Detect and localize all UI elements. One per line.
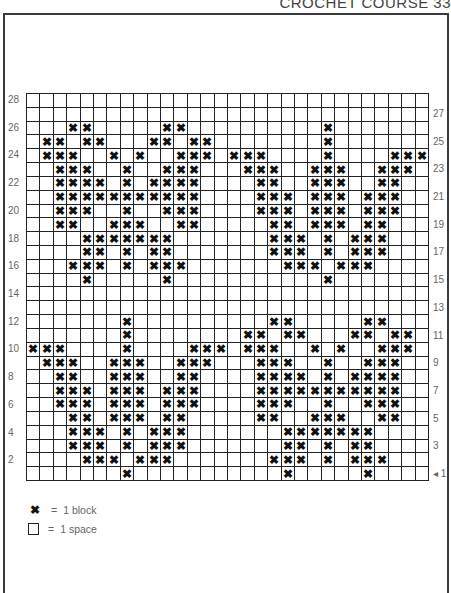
block-cell: ✖ — [255, 398, 268, 412]
block-cell: ✖ — [107, 218, 120, 232]
space-cell — [362, 287, 375, 301]
block-cell: ✖ — [40, 357, 53, 371]
block-cell: ✖ — [67, 177, 80, 191]
space-cell — [67, 287, 80, 301]
space-cell — [27, 398, 40, 412]
space-cell — [40, 384, 53, 398]
space-cell — [40, 108, 53, 122]
space-cell — [201, 232, 214, 246]
space-cell — [188, 232, 201, 246]
block-cell: ✖ — [161, 426, 174, 440]
block-cell: ✖ — [201, 357, 214, 371]
block-cell: ✖ — [322, 122, 335, 136]
space-cell — [201, 108, 214, 122]
block-cell: ✖ — [282, 440, 295, 454]
space-cell — [94, 274, 107, 288]
block-cell: ✖ — [148, 260, 161, 274]
space-cell — [322, 343, 335, 357]
block-cell: ✖ — [174, 122, 187, 136]
space-cell — [81, 343, 94, 357]
block-cell: ✖ — [375, 163, 388, 177]
space-cell — [375, 94, 388, 108]
block-cell: ✖ — [349, 426, 362, 440]
block-cell: ✖ — [161, 260, 174, 274]
block-cell: ✖ — [54, 343, 67, 357]
space-cell — [268, 260, 281, 274]
space-cell — [27, 260, 40, 274]
space-cell — [148, 287, 161, 301]
space-cell — [81, 357, 94, 371]
block-cell: ✖ — [308, 163, 321, 177]
space-cell — [188, 329, 201, 343]
block-cell: ✖ — [322, 398, 335, 412]
space-cell — [174, 467, 187, 481]
space-cell — [349, 108, 362, 122]
block-cell: ✖ — [362, 315, 375, 329]
space-cell — [295, 122, 308, 136]
space-cell — [94, 329, 107, 343]
space-cell — [161, 357, 174, 371]
block-cell: ✖ — [67, 163, 80, 177]
space-cell — [201, 384, 214, 398]
block-cell: ✖ — [308, 343, 321, 357]
space-cell — [375, 440, 388, 454]
space-cell — [362, 149, 375, 163]
space-cell — [349, 191, 362, 205]
block-cell: ✖ — [322, 246, 335, 260]
space-cell — [402, 453, 415, 467]
block-cell: ✖ — [362, 370, 375, 384]
block-cell: ✖ — [241, 163, 254, 177]
block-cell: ✖ — [121, 440, 134, 454]
block-cell: ✖ — [362, 440, 375, 454]
row-label: 21 — [433, 191, 444, 202]
block-cell: ✖ — [54, 384, 67, 398]
space-cell — [335, 122, 348, 136]
space-cell — [134, 467, 147, 481]
block-cell: ✖ — [67, 398, 80, 412]
block-cell: ✖ — [255, 177, 268, 191]
row-label: 9 — [433, 357, 439, 368]
space-cell — [308, 287, 321, 301]
space-cell — [94, 301, 107, 315]
block-cell: ✖ — [67, 191, 80, 205]
space-cell — [107, 135, 120, 149]
block-cell: ✖ — [81, 177, 94, 191]
space-cell — [268, 135, 281, 149]
space-cell — [416, 108, 429, 122]
block-cell: ✖ — [349, 440, 362, 454]
space-cell — [107, 122, 120, 136]
space-cell — [402, 135, 415, 149]
space-cell — [40, 453, 53, 467]
block-cell: ✖ — [121, 357, 134, 371]
legend-label: 1 block — [63, 504, 96, 516]
space-cell — [402, 440, 415, 454]
space-cell — [81, 329, 94, 343]
space-cell — [67, 135, 80, 149]
block-cell: ✖ — [375, 357, 388, 371]
space-cell — [255, 453, 268, 467]
space-cell — [27, 412, 40, 426]
space-cell — [81, 94, 94, 108]
block-cell: ✖ — [416, 149, 429, 163]
space-cell — [94, 357, 107, 371]
space-cell — [335, 274, 348, 288]
space-cell — [54, 94, 67, 108]
space-cell — [241, 301, 254, 315]
block-cell: ✖ — [362, 398, 375, 412]
space-cell — [215, 412, 228, 426]
block-cell: ✖ — [255, 329, 268, 343]
space-cell — [416, 357, 429, 371]
space-cell — [107, 177, 120, 191]
space-cell — [134, 440, 147, 454]
space-cell — [148, 398, 161, 412]
space-cell — [402, 232, 415, 246]
space-cell — [215, 453, 228, 467]
space-cell — [40, 426, 53, 440]
space-cell — [134, 343, 147, 357]
block-cell: ✖ — [174, 218, 187, 232]
space-cell — [54, 232, 67, 246]
space-cell — [215, 122, 228, 136]
block-cell: ✖ — [134, 398, 147, 412]
space-cell — [215, 467, 228, 481]
block-cell: ✖ — [174, 260, 187, 274]
